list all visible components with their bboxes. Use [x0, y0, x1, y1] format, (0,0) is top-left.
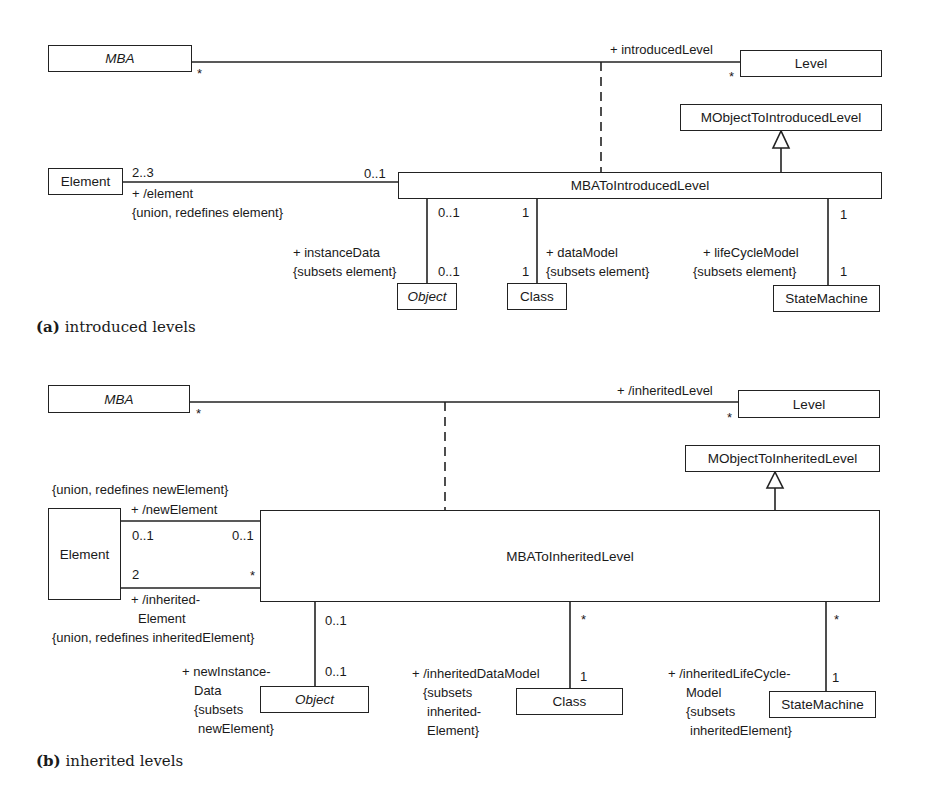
class-level[interactable]: Level	[740, 50, 882, 77]
mba-multiplicity: *	[197, 66, 202, 82]
new-element-mult-right: 0..1	[232, 528, 254, 544]
caption-b-tag: (b)	[36, 752, 61, 770]
class-top-multiplicity: 1	[522, 205, 529, 221]
caption-a: (a) introduced levels	[36, 318, 196, 336]
sm-role-1: + /inheritedLifeCycle-	[668, 666, 790, 682]
class-role-1: + /inheritedDataModel	[412, 666, 540, 682]
level-role: + introducedLevel	[610, 42, 713, 58]
sm-bottom-multiplicity: 1	[832, 670, 839, 686]
sm-role-2: Model	[686, 685, 721, 701]
class-object[interactable]: Object	[397, 283, 457, 310]
class-level[interactable]: Level	[738, 390, 880, 418]
caption-b: (b) inherited levels	[36, 752, 183, 770]
sm-role-3: {subsets	[686, 704, 735, 720]
class-class[interactable]: Class	[516, 688, 623, 715]
sm-bottom-multiplicity: 1	[840, 264, 847, 280]
object-top-multiplicity: 0..1	[438, 205, 460, 221]
object-role-1: + newInstance-	[182, 664, 271, 680]
inh-element-role-2: Element	[138, 611, 186, 627]
inh-element-mult-left: 2	[132, 567, 139, 583]
class-role-3: inherited-	[427, 704, 481, 720]
level-multiplicity: *	[727, 410, 732, 426]
object-constraint: {subsets element}	[293, 264, 396, 280]
class-object[interactable]: Object	[260, 686, 369, 713]
sm-constraint: {subsets element}	[693, 264, 796, 280]
class-state-machine[interactable]: StateMachine	[769, 691, 876, 718]
class-mba[interactable]: MBA	[48, 45, 192, 72]
class-mba-to-inherited-level[interactable]: MBAToInheritedLevel	[260, 510, 880, 602]
class-constraint: {subsets element}	[546, 264, 649, 280]
class-top-multiplicity: *	[581, 612, 586, 628]
class-bottom-multiplicity: 1	[522, 264, 529, 280]
object-role: + instanceData	[293, 245, 380, 261]
mba-multiplicity: *	[196, 406, 201, 422]
sm-top-multiplicity: 1	[840, 207, 847, 223]
element-multiplicity: 2..3	[132, 165, 154, 181]
sm-role: + lifeCycleModel	[703, 245, 799, 261]
caption-a-text: introduced levels	[65, 318, 196, 336]
class-mobject-to-introduced-level[interactable]: MObjectToIntroducedLevel	[680, 104, 882, 131]
new-element-role: + /newElement	[131, 502, 217, 518]
sm-top-multiplicity: *	[834, 612, 839, 628]
caption-b-text: inherited levels	[65, 752, 183, 770]
object-bottom-multiplicity: 0..1	[325, 664, 347, 680]
class-role-4: Element}	[427, 723, 479, 739]
object-role-4: newElement}	[198, 721, 274, 737]
caption-a-tag: (a)	[36, 318, 60, 336]
new-element-constraint: {union, redefines newElement}	[52, 482, 228, 498]
level-multiplicity: *	[729, 69, 734, 85]
element-constraint: {union, redefines element}	[132, 205, 283, 221]
object-top-multiplicity: 0..1	[325, 613, 347, 629]
class-mba-to-introduced-level[interactable]: MBAToIntroducedLevel	[398, 172, 882, 199]
assoc-element-multiplicity: 0..1	[364, 166, 386, 182]
inh-element-mult-right: *	[250, 568, 255, 584]
class-role-2: {subsets	[423, 685, 472, 701]
element-role: + /element	[132, 186, 193, 202]
object-role-2: Data	[194, 683, 221, 699]
class-state-machine[interactable]: StateMachine	[773, 285, 880, 312]
class-class[interactable]: Class	[507, 283, 567, 310]
class-role: + dataModel	[546, 245, 618, 261]
new-element-mult-left: 0..1	[132, 528, 154, 544]
sm-role-4: inheritedElement}	[690, 723, 792, 739]
class-bottom-multiplicity: 1	[580, 669, 587, 685]
class-element[interactable]: Element	[48, 168, 123, 195]
object-role-3: {subsets	[194, 702, 243, 718]
inh-element-role-1: + /inherited-	[131, 592, 200, 608]
class-element[interactable]: Element	[48, 508, 121, 600]
class-mobject-to-inherited-level[interactable]: MObjectToInheritedLevel	[685, 445, 880, 472]
level-role: + /inheritedLevel	[617, 383, 713, 399]
class-mba[interactable]: MBA	[48, 385, 190, 413]
object-bottom-multiplicity: 0..1	[438, 264, 460, 280]
inh-element-constraint: {union, redefines inheritedElement}	[52, 630, 254, 646]
